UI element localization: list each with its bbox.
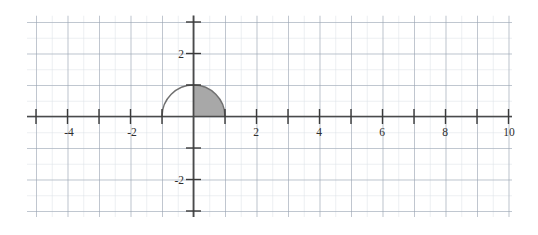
- x-tick-label: 8: [442, 126, 448, 138]
- x-tick-label: 10: [503, 126, 515, 138]
- x-tick-label: 6: [379, 126, 385, 138]
- y-tick-label: 2: [178, 48, 184, 60]
- graph-figure: -4 -2 2 4 6 8 10 2 -2: [0, 0, 538, 235]
- y-tick-label: -2: [174, 174, 184, 186]
- x-tick-label: 2: [253, 126, 259, 138]
- x-tick-label: -4: [64, 126, 74, 138]
- x-tick-label: -2: [127, 126, 137, 138]
- x-tick-label: 4: [316, 126, 322, 138]
- coordinate-plane-svg: -4 -2 2 4 6 8 10 2 -2: [0, 0, 538, 235]
